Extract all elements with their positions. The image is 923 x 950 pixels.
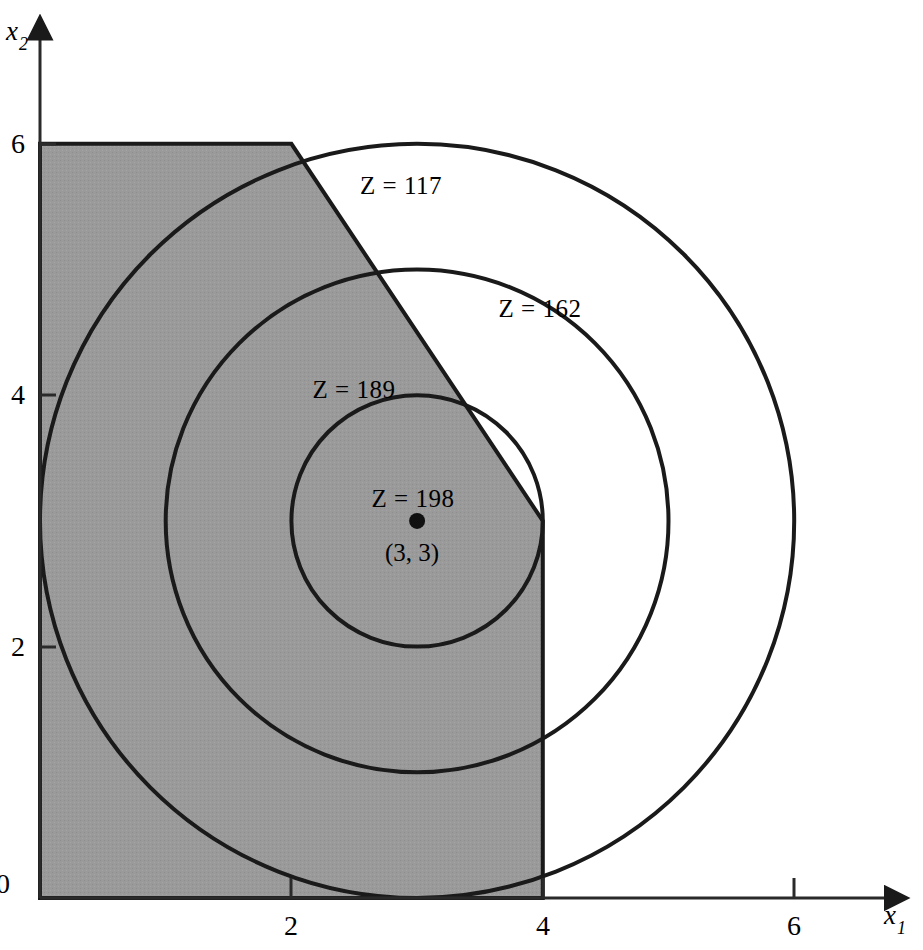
x-axis-title-text: x [884, 900, 896, 930]
optimal-point-coordinates-label: (3, 3) [385, 540, 439, 565]
optimal-point-marker [409, 513, 425, 529]
contour-label-z162: Z = 162 [499, 296, 582, 321]
y-axis-title-text: x [6, 16, 18, 46]
graphical-solution-figure: x2 x1 0 2 4 6 2 4 6 Z = 117 Z = 162 Z = … [0, 0, 923, 950]
x-axis-title-subscript: 1 [897, 918, 906, 938]
x-axis-title: x1 [884, 902, 905, 933]
y-tick-label-2: 2 [11, 633, 25, 661]
y-tick-label-4: 4 [11, 381, 25, 409]
plot-canvas [0, 0, 923, 950]
y-tick-label-6: 6 [11, 130, 25, 158]
x-tick-label-2: 2 [284, 912, 298, 940]
contour-label-z198: Z = 198 [372, 486, 455, 511]
contour-label-z189: Z = 189 [313, 377, 396, 402]
y-axis-title: x2 [6, 18, 27, 49]
origin-label: 0 [0, 870, 10, 898]
x-tick-label-6: 6 [787, 912, 801, 940]
contour-label-z117: Z = 117 [360, 173, 442, 198]
x-tick-label-4: 4 [536, 912, 550, 940]
y-axis-title-subscript: 2 [19, 34, 28, 54]
